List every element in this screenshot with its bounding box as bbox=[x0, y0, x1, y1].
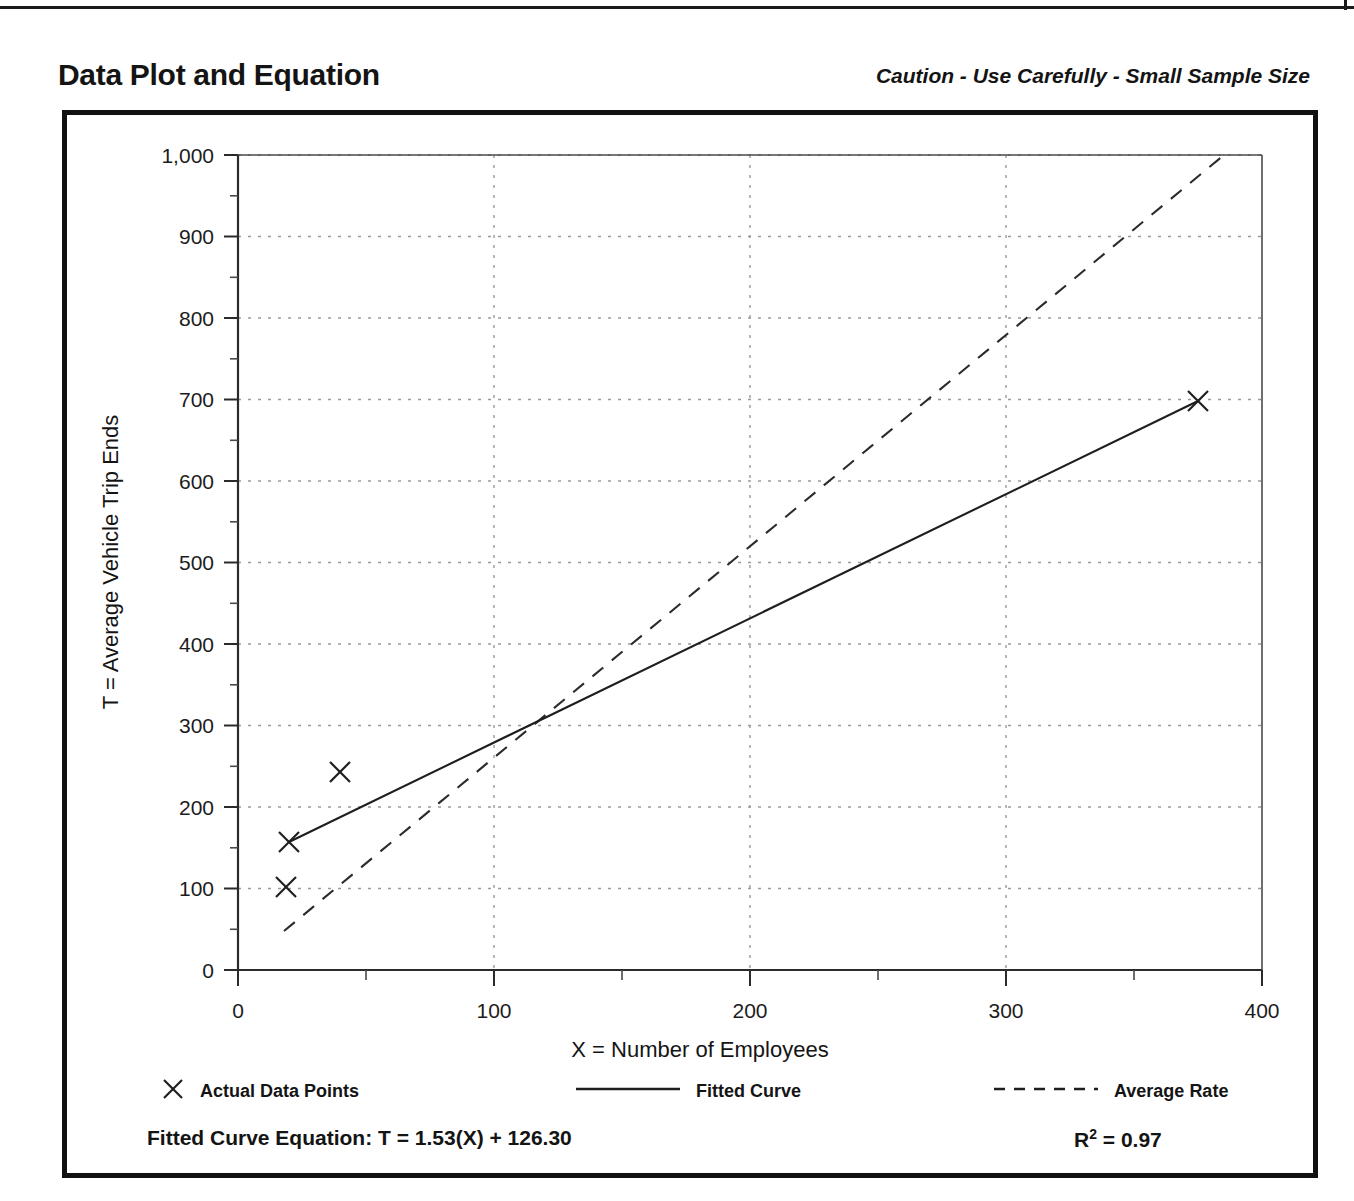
page-title: Data Plot and Equation bbox=[58, 58, 380, 92]
legend-label: Average Rate bbox=[1114, 1081, 1228, 1102]
legend-label: Actual Data Points bbox=[200, 1081, 359, 1102]
page-top-rule-edge bbox=[1344, 0, 1347, 10]
r-squared-exponent: 2 bbox=[1089, 1126, 1097, 1142]
caution-note: Caution - Use Carefully - Small Sample S… bbox=[876, 64, 1310, 88]
figure-page: Data Plot and Equation Caution - Use Car… bbox=[0, 0, 1354, 1201]
legend-label: Fitted Curve bbox=[696, 1081, 801, 1102]
chart-legend: Actual Data Points Fitted Curve Average … bbox=[62, 1074, 1318, 1114]
equation-row: Fitted Curve Equation: T = 1.53(X) + 126… bbox=[62, 1126, 1318, 1170]
dashed-line-icon bbox=[992, 1082, 1100, 1100]
legend-item-average-rate: Average Rate bbox=[992, 1074, 1228, 1108]
r-squared-number: = 0.97 bbox=[1097, 1128, 1162, 1151]
figure-header: Data Plot and Equation Caution - Use Car… bbox=[0, 58, 1354, 102]
solid-line-icon bbox=[574, 1082, 682, 1100]
legend-item-actual-data-points: Actual Data Points bbox=[160, 1074, 359, 1108]
figure-border-box bbox=[62, 110, 1318, 1178]
fitted-curve-equation: Fitted Curve Equation: T = 1.53(X) + 126… bbox=[147, 1126, 572, 1150]
x-marker-icon bbox=[160, 1076, 186, 1106]
legend-item-fitted-curve: Fitted Curve bbox=[574, 1074, 801, 1108]
page-top-rule bbox=[0, 6, 1354, 9]
r-squared-symbol: R bbox=[1074, 1128, 1089, 1151]
r-squared-value: R2 = 0.97 bbox=[1074, 1126, 1162, 1152]
